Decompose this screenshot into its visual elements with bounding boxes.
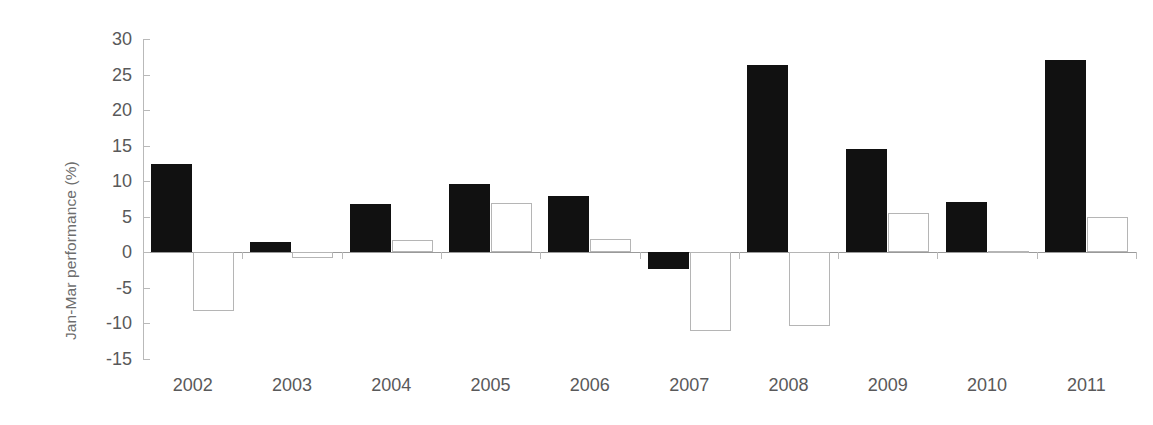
y-axis-tick-label: 25 [86, 66, 132, 84]
y-axis-tick-label: -5 [86, 279, 132, 297]
bar-2007-series-2 [690, 252, 731, 331]
x-axis-tick-mark [1136, 252, 1137, 259]
y-axis-tick-label: 15 [86, 137, 132, 155]
y-axis-tick-mark [143, 39, 150, 40]
y-axis-tick-label: 10 [86, 172, 132, 190]
y-axis-tick-mark [143, 181, 150, 182]
bar-2005-series-2 [491, 203, 532, 253]
bar-2002-series-1 [151, 164, 192, 252]
bar-2003-series-2 [292, 252, 333, 258]
bar-2002-series-2 [193, 252, 234, 311]
bar-2005-series-1 [449, 184, 490, 252]
bar-2011-series-2 [1087, 217, 1128, 252]
y-axis-tick-label: 20 [86, 101, 132, 119]
y-axis-line [143, 39, 144, 359]
x-axis-tick-mark [242, 252, 243, 259]
x-axis-tick-mark [1037, 252, 1038, 259]
bar-chart: Jan-Mar performance (%) 302520151050-5-1… [0, 0, 1153, 425]
y-axis-tick-label-group: 302520151050-5-10-15 [86, 0, 132, 425]
y-axis-tick-label: -15 [86, 350, 132, 368]
y-axis-tick-label: 5 [86, 208, 132, 226]
x-axis-tick-mark [937, 252, 938, 259]
x-axis-category-label-2009: 2009 [838, 375, 937, 395]
y-axis-tick-mark [143, 110, 150, 111]
y-axis-tick-mark [143, 288, 150, 289]
y-axis-tick-mark [143, 217, 150, 218]
bar-2004-series-2 [392, 240, 433, 253]
x-axis-tick-mark [838, 252, 839, 259]
x-axis-category-label-2006: 2006 [540, 375, 639, 395]
x-axis-category-label-2004: 2004 [342, 375, 441, 395]
y-axis-tick-label: 0 [86, 243, 132, 261]
x-axis-category-label-2011: 2011 [1037, 375, 1136, 395]
bar-2009-series-1 [846, 149, 887, 252]
bar-2010-series-1 [946, 202, 987, 252]
y-axis-tick-mark [143, 359, 150, 360]
y-axis-tick-label: -10 [86, 314, 132, 332]
bar-2006-series-1 [548, 196, 589, 252]
x-axis-tick-mark [441, 252, 442, 259]
bar-2008-series-1 [747, 65, 788, 253]
x-axis-tick-mark [739, 252, 740, 259]
bar-2006-series-2 [590, 239, 631, 253]
y-axis-tick-label: 30 [86, 30, 132, 48]
y-axis-tick-mark [143, 323, 150, 324]
y-axis-title: Jan-Mar performance (%) [58, 40, 84, 340]
x-axis-category-label-2007: 2007 [640, 375, 739, 395]
bar-2009-series-2 [888, 213, 929, 253]
x-axis-category-label-2010: 2010 [937, 375, 1036, 395]
y-axis-tick-mark [143, 75, 150, 76]
bar-2003-series-1 [250, 242, 291, 253]
y-axis-tick-mark [143, 252, 150, 253]
x-axis-category-label-2003: 2003 [242, 375, 341, 395]
x-axis-category-label-2008: 2008 [739, 375, 838, 395]
bar-2004-series-1 [350, 204, 391, 252]
x-axis-tick-mark [540, 252, 541, 259]
x-axis-tick-mark [342, 252, 343, 259]
x-axis-category-label-2005: 2005 [441, 375, 540, 395]
x-axis-tick-mark [143, 252, 144, 259]
bar-2008-series-2 [789, 252, 830, 325]
bar-2007-series-1 [648, 252, 689, 268]
y-axis-tick-mark [143, 146, 150, 147]
x-axis-tick-mark [640, 252, 641, 259]
x-axis-category-label-2002: 2002 [143, 375, 242, 395]
bar-2011-series-1 [1045, 60, 1086, 252]
bar-2010-series-2 [988, 251, 1029, 253]
